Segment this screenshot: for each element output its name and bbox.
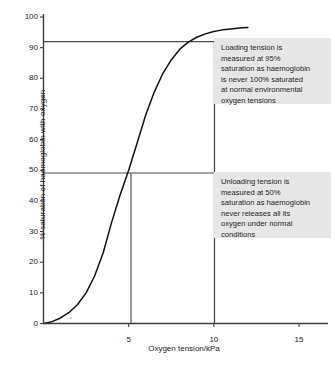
scan-speck bbox=[70, 317, 71, 318]
y-tick-label: 60 bbox=[14, 136, 38, 144]
y-tick-label: 40 bbox=[14, 197, 38, 205]
y-tick-label: 30 bbox=[14, 228, 38, 236]
annotation-line: is never 100% saturated bbox=[221, 75, 325, 86]
y-tick-label: 10 bbox=[14, 289, 38, 297]
x-axis-title: Oxygen tension/kPa bbox=[43, 344, 325, 353]
annotation-line: conditions bbox=[221, 230, 325, 241]
annotation-line: never releases all its bbox=[221, 209, 325, 220]
annotation-line: Unloading tension is bbox=[221, 177, 325, 188]
y-axis-tick-labels: 0102030405060708090100 bbox=[12, 0, 38, 365]
y-tick-label: 100 bbox=[14, 13, 38, 21]
annotation-line: measured at 50% bbox=[221, 188, 325, 199]
y-tick-label: 70 bbox=[14, 105, 38, 113]
y-axis-title: % saturation of haemoglobin with oxygen bbox=[38, 45, 47, 285]
annotation-line: measured at 95% bbox=[221, 54, 325, 65]
annotation-line: Loading tension is bbox=[221, 43, 325, 54]
annotation-line: saturation as haemoglobin bbox=[221, 198, 325, 209]
y-tick-label: 80 bbox=[14, 74, 38, 82]
y-tick-label: 0 bbox=[14, 320, 38, 328]
oxygen-dissociation-chart: 0102030405060708090100 51015 % saturatio… bbox=[0, 0, 335, 365]
annotation-line: saturation as haemoglobin bbox=[221, 64, 325, 75]
annotation-line: at normal environmental bbox=[221, 85, 325, 96]
annotation-line: oxygen tensions bbox=[221, 96, 325, 107]
loading-tension-note: Loading tension ismeasured at 95%saturat… bbox=[214, 38, 331, 104]
x-tick-label: 15 bbox=[287, 336, 311, 344]
y-tick-label: 50 bbox=[14, 166, 38, 174]
annotation-line: oxygen under normal bbox=[221, 219, 325, 230]
unloading-tension-note: Unloading tension ismeasured at 50%satur… bbox=[214, 172, 331, 238]
y-tick-label: 90 bbox=[14, 44, 38, 52]
y-tick-label: 20 bbox=[14, 258, 38, 266]
x-axis-tick-labels: 51015 bbox=[0, 330, 335, 344]
x-tick-label: 10 bbox=[202, 336, 226, 344]
x-tick-label: 5 bbox=[117, 336, 141, 344]
